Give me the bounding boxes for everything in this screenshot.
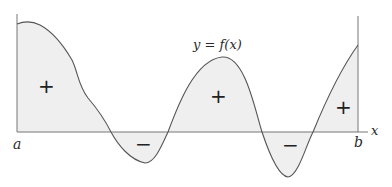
shaded-area bbox=[17, 22, 358, 177]
area-diagram: y = f(x) x a b + − + − + bbox=[0, 0, 392, 187]
plus-sign-region-5: + bbox=[335, 95, 352, 119]
b-label: b bbox=[354, 134, 363, 150]
plus-sign-region-1: + bbox=[38, 74, 55, 98]
curve-label: y = f(x) bbox=[192, 37, 242, 52]
plus-sign-region-3: + bbox=[210, 84, 227, 108]
minus-sign-region-2: − bbox=[135, 132, 152, 156]
x-axis-label: x bbox=[371, 123, 379, 138]
minus-sign-region-4: − bbox=[282, 133, 299, 157]
a-label: a bbox=[13, 136, 21, 152]
